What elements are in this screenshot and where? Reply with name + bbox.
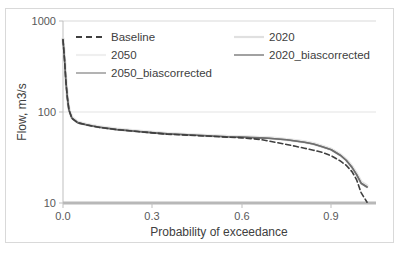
y-tick-label-10: 10 <box>44 197 56 209</box>
y-tick-label-1000: 1000 <box>32 15 56 27</box>
legend-label-baseline: Baseline <box>111 31 155 43</box>
series-line-2020-biascorrected <box>63 40 367 187</box>
x-tick-label-09: 0.9 <box>323 210 338 222</box>
chart-legend: Baseline 2020 2050 2020_biascorrected 20… <box>76 31 370 79</box>
series-line-baseline <box>63 40 367 202</box>
series-line-2050 <box>63 39 367 187</box>
legend-label-2050: 2050 <box>111 49 137 61</box>
x-tick-label-06: 0.6 <box>234 210 249 222</box>
x-axis-title: Probability of exceedance <box>150 225 288 239</box>
data-series-group <box>63 39 367 203</box>
series-line-2050-biascorrected <box>63 39 367 187</box>
flow-duration-curve-chart: 1000 100 10 Flow, m3/s 0.0 0.3 0.6 0.9 P… <box>6 9 395 244</box>
x-tick-label-03: 0.3 <box>144 210 159 222</box>
legend-label-2020-biascorrected: 2020_biascorrected <box>269 49 370 61</box>
y-tick-label-100: 100 <box>38 106 56 118</box>
legend-label-2020: 2020 <box>269 31 295 43</box>
x-tick-label-0: 0.0 <box>55 210 70 222</box>
chart-container: 1000 100 10 Flow, m3/s 0.0 0.3 0.6 0.9 P… <box>5 8 394 243</box>
y-axis-title: Flow, m3/s <box>15 83 29 140</box>
legend-label-2050-biascorrected: 2050_biascorrected <box>111 67 212 79</box>
